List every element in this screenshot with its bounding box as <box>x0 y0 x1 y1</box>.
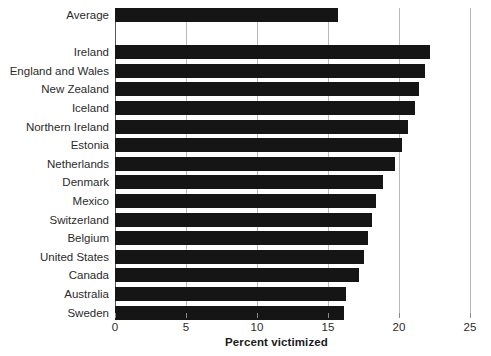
bar-row <box>115 64 470 78</box>
category-label-column: AverageIrelandEngland and WalesNew Zeala… <box>0 8 109 313</box>
bar-row <box>115 306 470 320</box>
category-label: England and Wales <box>0 64 109 78</box>
category-label: Mexico <box>0 194 109 208</box>
bar <box>115 101 415 115</box>
category-label: Canada <box>0 268 109 282</box>
bar-row <box>115 120 470 134</box>
bar <box>115 231 368 245</box>
bar-row <box>115 250 470 264</box>
category-label: Ireland <box>0 45 109 59</box>
bar-row <box>115 175 470 189</box>
bar-row <box>115 45 470 59</box>
category-label: Denmark <box>0 175 109 189</box>
bar <box>115 82 419 96</box>
bar-row <box>115 157 470 171</box>
x-tick-15 <box>328 313 329 318</box>
bar-row <box>115 82 470 96</box>
category-label: United States <box>0 250 109 264</box>
bar-row <box>115 268 470 282</box>
bar <box>115 120 408 134</box>
bar <box>115 157 395 171</box>
bar <box>115 64 425 78</box>
category-label: New Zealand <box>0 82 109 96</box>
gridline-25 <box>470 8 471 313</box>
category-label: Sweden <box>0 306 109 320</box>
bar <box>115 45 430 59</box>
x-tick-0 <box>115 313 116 318</box>
category-label: Northern Ireland <box>0 120 109 134</box>
bar <box>115 306 344 320</box>
bar <box>115 175 383 189</box>
bar-row <box>115 8 470 22</box>
x-tick-label-20: 20 <box>384 320 414 334</box>
x-tick-5 <box>186 313 187 318</box>
bar-chart: AverageIrelandEngland and WalesNew Zeala… <box>0 0 491 356</box>
plot-area <box>115 8 470 313</box>
bar-row <box>115 287 470 301</box>
category-label: Australia <box>0 287 109 301</box>
bar-row <box>115 213 470 227</box>
x-tick-label-5: 5 <box>171 320 201 334</box>
x-axis-title: Percent victimized <box>0 336 491 348</box>
bar <box>115 213 372 227</box>
x-tick-label-0: 0 <box>100 320 130 334</box>
bar <box>115 268 359 282</box>
x-axis-title-text: Percent victimized <box>163 336 328 348</box>
bar <box>115 250 364 264</box>
category-label: Iceland <box>0 101 109 115</box>
category-label: Average <box>0 8 109 22</box>
bar-row <box>115 101 470 115</box>
bar <box>115 138 402 152</box>
category-label: Belgium <box>0 231 109 245</box>
x-tick-10 <box>257 313 258 318</box>
x-tick-label-10: 10 <box>242 320 272 334</box>
bar-row <box>115 138 470 152</box>
category-label: Estonia <box>0 138 109 152</box>
category-label: Switzerland <box>0 213 109 227</box>
x-tick-label-15: 15 <box>313 320 343 334</box>
x-tick-20 <box>399 313 400 318</box>
bar <box>115 8 338 22</box>
x-tick-label-25: 25 <box>455 320 485 334</box>
bar <box>115 194 376 208</box>
x-tick-25 <box>470 313 471 318</box>
bar <box>115 287 346 301</box>
bar-row <box>115 231 470 245</box>
category-label: Netherlands <box>0 157 109 171</box>
bar-row <box>115 194 470 208</box>
